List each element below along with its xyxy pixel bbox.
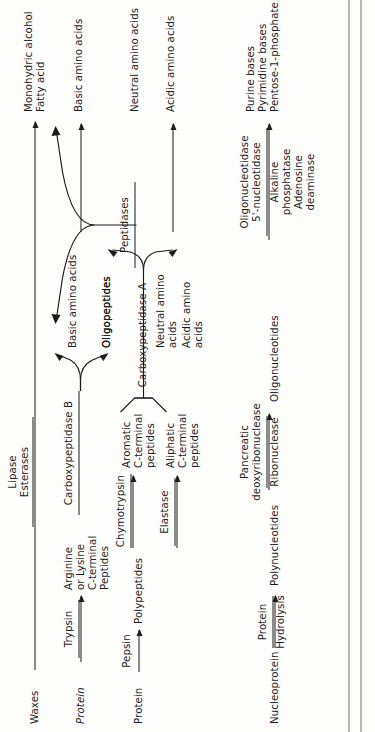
product-pyrimidine-bases: Pyrimidine bases [256, 24, 268, 112]
product-monohydric-alcohol: Monohydric alcohol [22, 11, 34, 112]
rule-peptidases [134, 182, 135, 268]
arrow-pepsin [138, 630, 139, 672]
rule-elastase [174, 478, 175, 546]
intermediate-arginine-lysine-l2: or Lysine [74, 544, 86, 590]
rule-protein-hydrolysis [272, 596, 273, 648]
intermediate-acidic-amino-acids-l1: Acidic amino [180, 282, 192, 348]
fork-cpb-to-oligopeptides [80, 355, 104, 391]
fork-cpa-to-neutral-acids [143, 250, 172, 270]
figure-page: Waxes Lipase Esterases Monohydric alcoho… [0, 0, 375, 732]
rotated-canvas-wrapper: Waxes Lipase Esterases Monohydric alcoho… [0, 0, 375, 732]
fork-cpb-to-basic-amino-acids [58, 355, 80, 391]
enzyme-pepsin: Pepsin [120, 628, 132, 674]
enzyme-trypsin: Trypsin [62, 598, 74, 660]
enzyme-peptidases: Peptidases [118, 180, 130, 270]
arrow-elastase [176, 476, 177, 548]
intermediate-acidic-amino-acids-l2: acids [192, 321, 204, 348]
intermediate-neutral-amino-acids-l2: acids [166, 321, 178, 348]
rule-chymotrypsin [130, 474, 131, 548]
enzyme-oligonucleotidase: Oligonucleotidase [238, 112, 250, 252]
enzyme-deoxyribonuclease: deoxyribonuclease [250, 394, 262, 510]
arrowhead-cpa-neutral-acids [168, 249, 177, 257]
intermediate-arginine-lysine-l1: Arginine [62, 547, 74, 590]
intermediate-aliphatic-l1: Aliphatic [164, 423, 176, 468]
intermediate-aliphatic-l3: peptides [188, 423, 200, 468]
enzyme-adenosine: Adenosine [292, 132, 304, 232]
enzyme-phosphatase: phosphatase [280, 132, 292, 232]
product-acidic-amino-acids: Acidic amino acids [164, 15, 176, 112]
intermediate-basic-amino-acids-mid: Basic amino acids [66, 255, 78, 348]
intermediate-aromatic-l2: C-terminal [132, 414, 144, 468]
diagram-canvas: Waxes Lipase Esterases Monohydric alcoho… [0, 0, 375, 732]
arrow-lipase-esterases [34, 122, 35, 670]
arrowhead-peptidases-right [51, 126, 60, 136]
enzyme-5-nucleotidase: 5'-nucleotidase [250, 116, 262, 248]
arrow-chymotrypsin [132, 476, 133, 548]
enzyme-carboxypeptidase-b: Carboxypeptidase B [62, 389, 74, 517]
intermediate-oligopeptides-a: Oligopeptides [100, 276, 112, 348]
peptidases-curve-right [56, 132, 94, 225]
intermediate-aromatic-l1: Aromatic [120, 421, 132, 468]
arrow-basic-amino-acids-final [80, 124, 81, 232]
enzyme-carboxypeptidase-a: Carboxypeptidase A [136, 271, 148, 399]
product-basic-amino-acids: Basic amino acids [72, 19, 84, 112]
plate-frame-line-1 [348, 0, 349, 732]
substrate-protein: Protein [132, 688, 144, 724]
arrow-trypsin [80, 596, 81, 662]
product-purine-bases: Purine bases [244, 46, 256, 112]
enzyme-pancreatic: Pancreatic [238, 402, 250, 502]
product-fatty-acid: Fatty acid [34, 61, 46, 112]
arrow-neutral-amino-acids-final [172, 124, 173, 232]
arrowhead-cpb-oligopeptides [99, 353, 108, 361]
connector-overlay [0, 0, 375, 732]
intermediate-neutral-amino-acids-l1: Neutral amino [154, 274, 166, 348]
substrate-waxes: Waxes [28, 691, 40, 724]
substrate-nucleoprotein: Nucleoprotein [268, 651, 280, 724]
enzyme-elastase: Elastase [158, 476, 170, 548]
product-neutral-amino-acids: Neutral amino acids [128, 8, 140, 112]
substrate-protein-italic: Protein [74, 687, 86, 724]
rule-nucleotidase [266, 128, 267, 236]
intermediate-polypeptides: Polypeptides [132, 558, 144, 624]
enzyme-esterases: Esterases [18, 412, 30, 532]
arrowhead-cpb-basic-amino-acids [54, 353, 63, 361]
product-pentose-1-phosphate: Pentose-1-phosphate [268, 2, 280, 112]
intermediate-polynucleotides: Polynucleotides [268, 505, 280, 586]
rule-carboxypeptidase-b [78, 391, 79, 515]
arrowhead-cpa-oligopeptides [107, 249, 117, 257]
rule-trypsin [78, 600, 79, 658]
arrowhead-peptidases-left [51, 314, 60, 324]
enzyme-alkaline: Alkaline [268, 140, 280, 224]
enzyme-deaminase: deaminase [304, 132, 316, 232]
enzyme-chymotrypsin: Chymotrypsin [114, 470, 126, 552]
enzyme-protein-hydrolysis-bottom: Hydrolysis [274, 590, 286, 654]
intermediate-arginine-lysine-l3: C-terminal [86, 536, 98, 590]
enzyme-lipase: Lipase [6, 412, 18, 532]
intermediate-aliphatic-l2: C-terminal [176, 414, 188, 468]
enzyme-protein-hydrolysis-top: Protein [256, 592, 268, 652]
intermediate-oligonucleotides: Oligonucleotides [268, 315, 280, 402]
intermediate-aromatic-l3: peptides [144, 423, 156, 468]
rule-lipase-esterases [32, 417, 33, 527]
enzyme-ribonuclease: Ribonuclease [268, 410, 280, 494]
fork-cpa-inputs [120, 398, 166, 412]
plate-frame-line-2 [360, 0, 361, 732]
rule-nuclease [266, 416, 267, 488]
intermediate-arginine-lysine-l4: Peptides [98, 546, 110, 590]
